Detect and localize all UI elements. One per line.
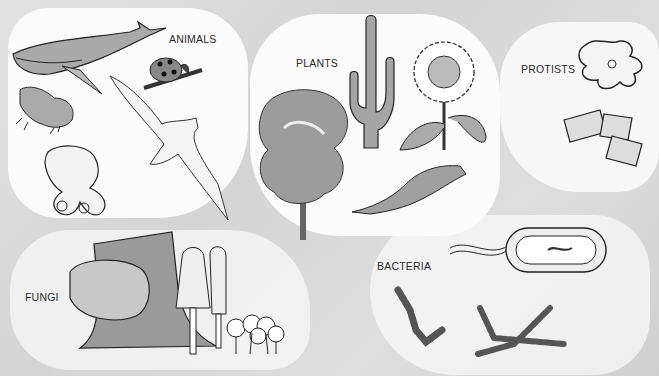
albatross-icon <box>108 74 228 224</box>
sunflower-icon <box>398 38 494 154</box>
mushroom-cluster-icon <box>226 314 286 358</box>
bacteria-label: BACTERIA <box>377 260 431 272</box>
amoeba-icon <box>576 36 648 92</box>
animals-label: ANIMALS <box>169 33 217 45</box>
tree-icon <box>254 88 354 240</box>
octopus-icon <box>40 144 120 220</box>
plants-label: PLANTS <box>296 57 338 69</box>
diagram-canvas: ANIMALS PLANTS PROTISTS FUNGI BACTERIA <box>0 0 659 376</box>
diatoms-icon <box>562 106 648 168</box>
saguaro-cactus-icon <box>346 12 402 152</box>
fungi-label: FUNGI <box>25 291 59 303</box>
shaggy-mane-mushrooms-icon <box>174 244 230 356</box>
frog-icon <box>14 84 78 134</box>
filamentous-bacteria-icon <box>474 304 574 360</box>
flagellated-bacterium-icon <box>448 218 618 288</box>
streptococcus-chain-icon <box>394 286 450 348</box>
protists-label: PROTISTS <box>521 63 575 75</box>
liverwort-icon <box>350 160 468 216</box>
